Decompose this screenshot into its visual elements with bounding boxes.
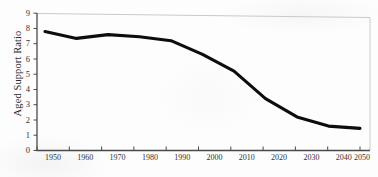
y-tick-label-5: 5 — [18, 70, 30, 79]
x-tick-label-1990: 1990 — [167, 153, 197, 162]
plot-area — [0, 0, 378, 177]
chart-figure: Aged Support Ratio — [0, 0, 378, 177]
y-tick-label-1: 1 — [18, 131, 30, 140]
y-tick-label-0: 0 — [18, 146, 30, 155]
y-tick-label-6: 6 — [18, 55, 30, 64]
y-tick-label-9: 9 — [18, 9, 30, 18]
y-tick-label-3: 3 — [18, 100, 30, 109]
y-tick-label-7: 7 — [18, 39, 30, 48]
x-tick-label-1980: 1980 — [135, 153, 165, 162]
y-tick-label-2: 2 — [18, 116, 30, 125]
y-tick-label-8: 8 — [18, 24, 30, 33]
y-tick-label-4: 4 — [18, 85, 30, 94]
series-line-aged-support-ratio — [45, 32, 360, 129]
plot-border-top — [37, 14, 370, 18]
x-tick-label-2000: 2000 — [200, 153, 230, 162]
x-tick-label-2030: 2030 — [296, 153, 326, 162]
x-tick-label-1970: 1970 — [103, 153, 133, 162]
x-tick-label-2050: 2050 — [347, 153, 377, 162]
x-tick-label-2020: 2020 — [264, 153, 294, 162]
x-tick-label-1960: 1960 — [70, 153, 100, 162]
x-tick-label-2010: 2010 — [232, 153, 262, 162]
x-tick-label-1950: 1950 — [38, 153, 68, 162]
